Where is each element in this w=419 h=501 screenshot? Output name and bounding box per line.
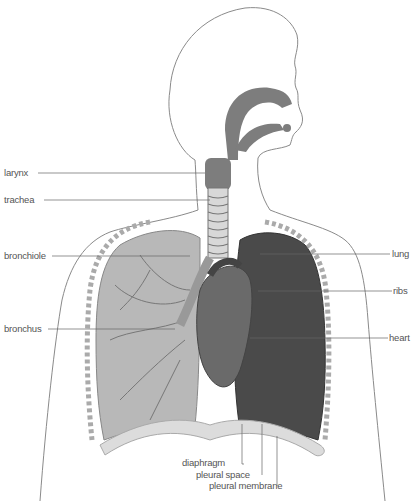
label-trachea: trachea	[4, 195, 34, 205]
respiratory-diagram	[0, 0, 419, 501]
left-lung	[96, 231, 200, 440]
label-bronchiole: bronchiole	[4, 251, 46, 261]
label-lung: lung	[392, 249, 409, 259]
label-pleural-space: pleural space	[196, 470, 250, 480]
label-heart: heart	[389, 333, 410, 343]
label-bronchus: bronchus	[4, 324, 41, 334]
label-larynx: larynx	[4, 168, 28, 178]
label-diaphragm: diaphragm	[182, 458, 225, 468]
larynx	[205, 158, 231, 190]
label-ribs: ribs	[393, 286, 408, 296]
nasal-cavity	[225, 88, 292, 160]
label-pleural-membrane: pleural membrane	[209, 481, 282, 491]
